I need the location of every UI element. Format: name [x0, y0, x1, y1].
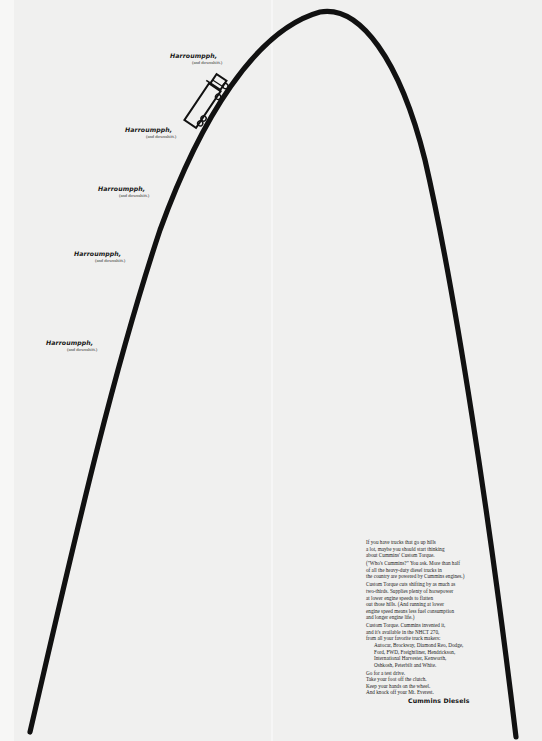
harroumpph-label-3: Harroumpph, (and downshift.): [98, 186, 149, 198]
truck-makers-line: Oshkosh, Peterbilt and White.: [366, 662, 508, 669]
label-subtext: (and downshift.): [46, 348, 97, 353]
label-headline: Harroumpph,: [170, 53, 222, 59]
label-headline: Harroumpph,: [98, 186, 149, 192]
body-copy: If you have trucks that go up hills a lo…: [366, 539, 508, 704]
harroumpph-label-5: Harroumpph, (and downshift.): [46, 340, 97, 352]
copy-line: about Cummins' Custom Torque.: [366, 552, 508, 559]
copy-paragraph-2: ("Who's Cummins?" You ask. More than hal…: [366, 560, 508, 580]
harroumpph-label-1: Harroumpph, (and downshift.): [170, 53, 222, 65]
harroumpph-label-4: Harroumpph, (and downshift.): [74, 251, 125, 263]
label-headline: Harroumpph,: [125, 127, 176, 133]
copy-line: and longer engine life.): [366, 614, 508, 621]
copy-paragraph-3: Custom Torque cuts shifting by as much a…: [366, 581, 508, 620]
copy-paragraph-1: If you have trucks that go up hills a lo…: [366, 539, 508, 559]
label-subtext: (and downshift.): [170, 61, 222, 66]
harroumpph-label-2: Harroumpph, (and downshift.): [125, 127, 176, 139]
copy-paragraph-5: Go for a test drive. Take your foot off …: [366, 670, 508, 696]
label-subtext: (and downshift.): [74, 259, 125, 264]
copy-line: the country are powered by Cummins engin…: [366, 573, 508, 580]
brand-signature: Cummins Diesels: [366, 698, 508, 705]
label-subtext: (and downshift.): [125, 135, 176, 140]
label-headline: Harroumpph,: [46, 340, 97, 346]
copy-paragraph-4: Custom Torque. Cummins invented it, and …: [366, 622, 508, 668]
label-subtext: (and downshift.): [98, 194, 149, 199]
label-headline: Harroumpph,: [74, 251, 125, 257]
copy-line: And knock off your Mt. Everest.: [366, 689, 508, 696]
advertisement-page: Harroumpph, (and downshift.) Harroumpph,…: [0, 0, 542, 741]
